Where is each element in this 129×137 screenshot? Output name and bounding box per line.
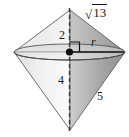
label-height-lower: 4 xyxy=(58,74,64,86)
label-slant-upper: √13 xyxy=(85,6,107,21)
radicand-value: 13 xyxy=(92,4,107,20)
lower-cone-left-face xyxy=(14,52,70,130)
label-height-upper: 2 xyxy=(59,29,65,41)
label-slant-lower: 5 xyxy=(97,90,103,102)
center-dot xyxy=(66,48,73,55)
geometry-figure: √13 2 r 4 5 xyxy=(0,0,129,137)
label-radius: r xyxy=(91,36,96,48)
bicone-svg xyxy=(0,0,129,137)
